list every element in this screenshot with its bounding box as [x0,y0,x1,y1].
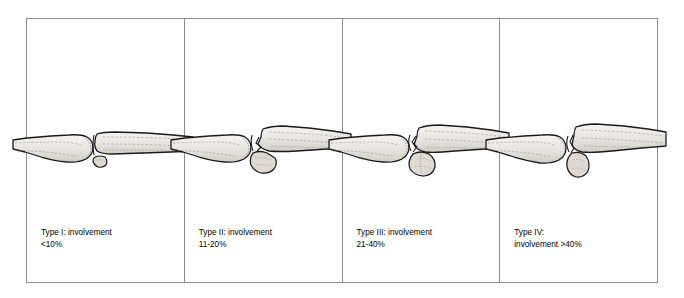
caption-type-2: Type II: involvement 11-20% [199,227,339,250]
caption-type-1: Type I: involvement <10% [41,227,181,250]
caption-line-1: Type IV: [514,227,654,238]
volar-fracture-fragment-type-1 [93,156,107,167]
panel-type-4: Type IV: involvement >40% [500,19,657,282]
caption-line-1: Type I: involvement [41,227,181,238]
bone-illustration-type-1 [21,107,191,191]
panel-type-2: Type II: involvement 11-20% [185,19,343,282]
caption-line-1: Type II: involvement [199,227,339,238]
caption-line-2: involvement >40% [514,239,654,250]
middle-phalanx-base-subluxated [414,125,509,152]
middle-phalanx-base-subluxated [572,124,666,152]
panel-type-1: Type I: involvement <10% [27,19,185,282]
proximal-phalanx-head [13,135,93,162]
volar-fracture-fragment-type-3 [409,152,435,176]
caption-line-1: Type III: involvement [357,227,497,238]
middle-phalanx-base-subluxated [258,126,351,152]
caption-line-2: 21-40% [357,239,497,250]
caption-line-2: 11-20% [199,239,339,250]
caption-line-2: <10% [41,239,181,250]
middle-phalanx-base [95,132,193,154]
bone-illustration-type-2 [179,107,349,191]
figure-frame: Type I: involvement <10% [26,18,658,283]
panel-type-3: Type III: involvement 21-40% [343,19,501,282]
volar-fracture-fragment-type-2 [250,152,276,174]
caption-type-4: Type IV: involvement >40% [514,227,654,250]
volar-fracture-fragment-type-4 [567,152,589,177]
bone-illustration-type-4 [494,107,664,191]
bone-illustration-type-3 [337,107,507,191]
caption-type-3: Type III: involvement 21-40% [357,227,497,250]
